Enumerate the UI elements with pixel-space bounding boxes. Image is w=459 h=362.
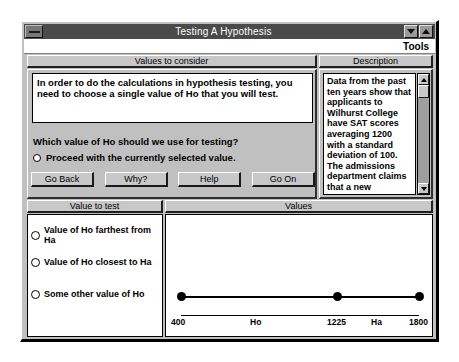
tick-label-1225: 1225: [327, 317, 346, 327]
go-on-button[interactable]: Go On: [252, 172, 315, 187]
proceed-radio-button[interactable]: [33, 154, 41, 162]
tick-label-1800: 1800: [409, 317, 428, 327]
description-panel: Data from the past ten years show that a…: [319, 69, 433, 199]
panel-header-values-to-consider: Values to consider: [27, 55, 317, 68]
window-controls: [404, 25, 433, 38]
marker-400[interactable]: [177, 292, 186, 301]
maximize-glyph: [422, 29, 430, 34]
scroll-up-arrow-icon[interactable]: [418, 74, 429, 85]
menu-item-tools[interactable]: Tools: [403, 41, 435, 52]
help-button[interactable]: Help: [178, 172, 241, 187]
scrollbar-thumb[interactable]: [418, 85, 429, 98]
option-closest-to-ha[interactable]: Value of Ho closest to Ha: [31, 257, 152, 267]
system-menu-glyph: [29, 31, 40, 33]
values-to-consider-panel: In order to do the calculations in hypot…: [27, 69, 317, 199]
values-panel: 400 1225 1800 Ho Ha: [165, 214, 433, 337]
instruction-textbox: In order to do the calculations in hypot…: [32, 73, 313, 123]
scroll-up-glyph: [421, 78, 427, 82]
why-button[interactable]: Why?: [105, 172, 168, 187]
option-some-other-value[interactable]: Some other value of Ho: [31, 289, 145, 299]
panel-header-description: Description: [319, 55, 433, 68]
number-line-axis: [181, 315, 419, 316]
option-other-label: Some other value of Ho: [44, 289, 145, 299]
description-textbox: Data from the past ten years show that a…: [323, 73, 416, 195]
segment-label-ho: Ho: [250, 317, 261, 327]
value-to-test-panel: Value of Ho farthest from Ha Value of Ho…: [27, 214, 163, 337]
application-window: Testing A Hypothesis Tools Values to con…: [20, 20, 439, 342]
number-line-segment: [181, 296, 419, 298]
tick-label-400: 400: [171, 317, 185, 327]
proceed-radio-label: Proceed with the currently selected valu…: [46, 152, 236, 163]
panel-header-value-to-test: Value to test: [27, 200, 163, 213]
option-other-radio[interactable]: [31, 290, 40, 299]
question-label: Which value of Ho should we use for test…: [33, 136, 238, 147]
option-farthest-label: Value of Ho farthest from Ha: [44, 225, 162, 245]
segment-label-ha: Ha: [371, 317, 382, 327]
proceed-radio-row[interactable]: Proceed with the currently selected valu…: [33, 152, 236, 163]
minimize-glyph: [407, 29, 415, 34]
option-farthest-radio[interactable]: [31, 231, 40, 240]
scroll-down-arrow-icon[interactable]: [418, 183, 429, 194]
maximize-icon[interactable]: [419, 25, 433, 38]
number-line-chart[interactable]: 400 1225 1800 Ho Ha: [166, 215, 432, 336]
option-farthest-from-ha[interactable]: Value of Ho farthest from Ha: [31, 225, 162, 245]
instruction-text: In order to do the calculations in hypot…: [37, 77, 308, 99]
option-closest-label: Value of Ho closest to Ha: [44, 257, 152, 267]
title-bar: Testing A Hypothesis: [24, 24, 435, 39]
description-scrollbar[interactable]: [417, 73, 430, 195]
marker-1800[interactable]: [415, 292, 424, 301]
action-button-row: Go Back Why? Help Go On: [31, 172, 315, 187]
minimize-icon[interactable]: [404, 25, 418, 38]
scroll-down-glyph: [421, 187, 427, 191]
screen: Testing A Hypothesis Tools Values to con…: [0, 0, 459, 362]
marker-1225[interactable]: [333, 292, 342, 301]
menu-bar: Tools: [24, 39, 435, 54]
panel-header-values: Values: [165, 200, 433, 213]
go-back-button[interactable]: Go Back: [31, 172, 94, 187]
description-text: Data from the past ten years show that a…: [327, 76, 412, 195]
system-menu-icon[interactable]: [25, 25, 43, 38]
option-closest-radio[interactable]: [31, 258, 40, 267]
window-title: Testing A Hypothesis: [43, 25, 404, 38]
